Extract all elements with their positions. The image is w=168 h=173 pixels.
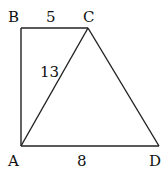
measure-bc: 5	[46, 8, 56, 26]
segment-cd	[88, 28, 159, 146]
measure-ac: 13	[40, 63, 59, 81]
measure-ad: 8	[77, 152, 87, 170]
trapezoid-figure: B 5 C 13 A 8 D	[0, 0, 168, 173]
vertex-label-c: C	[83, 8, 94, 26]
vertex-label-a: A	[7, 152, 19, 170]
vertex-label-b: B	[8, 8, 19, 26]
vertex-label-d: D	[149, 152, 161, 170]
geometry-diagram: B 5 C 13 A 8 D	[0, 0, 168, 173]
segment-ac	[21, 28, 88, 146]
